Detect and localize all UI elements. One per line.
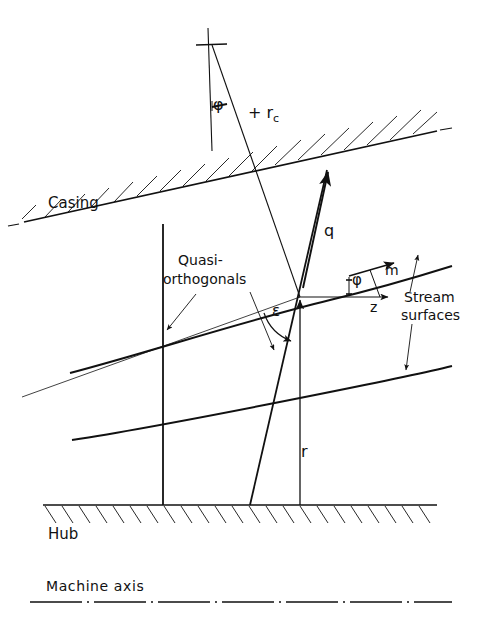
rc-base: + r (248, 103, 273, 122)
axial-z-label: z (370, 300, 377, 315)
quasi-orthogonals-label-line1: Quasi- (178, 253, 223, 268)
radius-of-curvature-label: + rc (248, 103, 279, 125)
velocity-component-construction (297, 263, 394, 297)
machine-axis-label: Machine axis (46, 579, 144, 594)
hub-hatching (45, 506, 430, 523)
leader-stream-surface-upper (410, 255, 418, 292)
casing-label: Casing (48, 196, 99, 212)
component-connector (370, 270, 380, 297)
stream-surfaces-label-line1: Stream (404, 290, 455, 305)
quasi-orthogonals-label-line2: orthogonals (163, 272, 246, 287)
epsilon-angle-label: ε (272, 304, 280, 320)
vertical-reference-line (208, 28, 212, 151)
stream-surface-lower (72, 366, 452, 440)
radius-of-curvature-line (212, 45, 300, 297)
leader-quasi-orthogonal-left (167, 294, 196, 330)
quasi-orthogonal-right (250, 170, 327, 505)
phi-angle-mid-label: φ (352, 273, 362, 289)
hub-boundary (43, 505, 437, 523)
velocity-q-label: q (324, 223, 334, 240)
radius-r-label: r (301, 444, 308, 461)
phi-angle-top-label: φ (213, 97, 224, 114)
hub-label: Hub (48, 527, 78, 543)
rc-subscript: c (273, 112, 279, 125)
meridional-m-label: m (385, 263, 399, 278)
leader-stream-surface-lower (406, 324, 412, 370)
stream-surfaces (70, 266, 452, 440)
figure-canvas: Casing Hub Machine axis Quasi- orthogona… (0, 0, 486, 627)
stream-surfaces-label-line2: surfaces (401, 308, 460, 323)
reference-tick (196, 44, 227, 45)
